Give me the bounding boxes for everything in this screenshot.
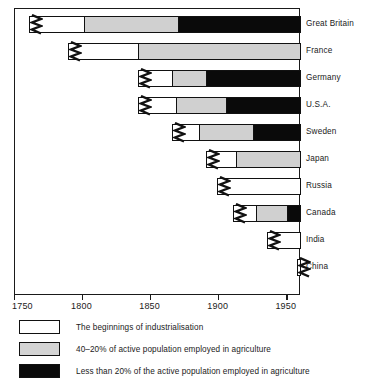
- bar-segment-gray: [199, 125, 253, 140]
- country-label-china: China: [306, 262, 328, 272]
- bar-segment-black: [178, 17, 300, 32]
- timeline-bar: [217, 178, 301, 195]
- bar-segment-white: [234, 206, 256, 221]
- industrialisation-timeline-chart: Great BritainFranceGermanyU.S.A.SwedenJa…: [0, 0, 368, 387]
- legend-label: 40–20% of active population employed in …: [76, 344, 271, 355]
- legend-label: The beginnings of industrialisation: [76, 322, 203, 333]
- bar-segment-black: [226, 98, 300, 113]
- bar-segment-black: [287, 206, 300, 221]
- country-label-great-britain: Great Britain: [306, 19, 354, 29]
- bar-segment-gray: [256, 206, 286, 221]
- legend-swatch-black: [19, 364, 60, 378]
- country-label-canada: Canada: [306, 208, 336, 218]
- bar-segment-white: [139, 71, 173, 86]
- bar-segment-white: [298, 260, 300, 275]
- country-label-france: France: [306, 46, 332, 56]
- legend-label: Less than 20% of the active population e…: [76, 366, 310, 377]
- bar-segment-gray: [84, 17, 179, 32]
- x-tick-label: 1800: [71, 301, 92, 311]
- bar-segment-white: [139, 98, 177, 113]
- country-label-russia: Russia: [306, 181, 332, 191]
- bar-segment-white: [218, 179, 300, 194]
- x-tick-label: 1850: [139, 301, 160, 311]
- bar-segment-gray: [236, 152, 300, 167]
- timeline-bar: [297, 259, 301, 276]
- timeline-bar: [138, 70, 301, 87]
- timeline-bar: [68, 43, 301, 60]
- timeline-bar: [233, 205, 301, 222]
- legend-swatch-white: [19, 320, 60, 334]
- bar-segment-black: [206, 71, 300, 86]
- legend-swatch-gray: [19, 342, 60, 356]
- bar-segment-gray: [138, 44, 300, 59]
- country-label-u-s-a: U.S.A.: [306, 100, 331, 110]
- country-label-sweden: Sweden: [306, 127, 337, 137]
- x-axis: 17501800185019001950: [14, 295, 300, 317]
- timeline-bar: [138, 97, 301, 114]
- x-tick-label: 1900: [207, 301, 228, 311]
- x-tick: [218, 295, 219, 300]
- bar-segment-white: [268, 233, 300, 248]
- country-label-japan: Japan: [306, 154, 329, 164]
- bar-segment-white: [30, 17, 84, 32]
- x-tick-label: 1750: [12, 301, 33, 311]
- bar-segment-gray: [172, 71, 206, 86]
- x-tick: [150, 295, 151, 300]
- x-tick-label: 1950: [275, 301, 296, 311]
- timeline-bar: [267, 232, 301, 249]
- bar-segment-white: [207, 152, 236, 167]
- bar-segment-gray: [176, 98, 226, 113]
- bar-segment-white: [69, 44, 138, 59]
- country-label-india: India: [306, 235, 325, 245]
- x-tick: [286, 295, 287, 300]
- timeline-bar: [172, 124, 301, 141]
- timeline-bar: [29, 16, 301, 33]
- bar-segment-black: [253, 125, 300, 140]
- timeline-bar: [206, 151, 301, 168]
- bar-segment-white: [173, 125, 200, 140]
- x-tick: [14, 295, 15, 300]
- plot-area: [14, 8, 300, 295]
- country-label-germany: Germany: [306, 73, 341, 83]
- x-tick: [82, 295, 83, 300]
